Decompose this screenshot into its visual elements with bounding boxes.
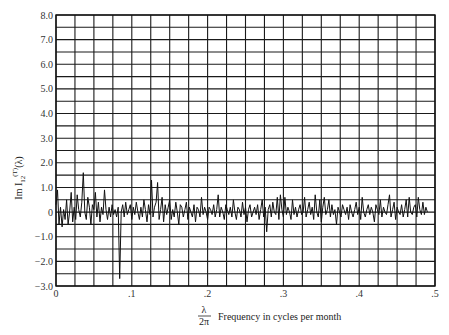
x-axis-ticks: 0.1.2.3.4.5 (54, 288, 439, 299)
x-tick-label: .3 (280, 288, 288, 299)
y-tick-label: −3.0 (35, 281, 53, 292)
x-tick-label: .2 (204, 288, 212, 299)
x-label-text: Frequency in cycles per month (218, 311, 341, 322)
x-axis-label: λ 2π Frequency in cycles per month (198, 304, 341, 327)
y-tick-label: 7.0 (41, 34, 54, 45)
x-tick-label: .4 (355, 288, 363, 299)
x-label-denominator: 2π (199, 316, 209, 327)
x-tick-label: .5 (431, 288, 439, 299)
y-tick-label: 4.0 (41, 108, 54, 119)
y-tick-label: −1.0 (35, 231, 53, 242)
chart: 8.07.06.05.04.03.02.01.00−1.0−2.0−3.0 0.… (0, 0, 449, 335)
x-tick-label: .1 (128, 288, 136, 299)
y-tick-label: 3.0 (41, 133, 54, 144)
x-label-numerator: λ (202, 304, 207, 315)
y-tick-label: 6.0 (41, 59, 54, 70)
y-axis-label: Im I12(T)(λ) (11, 156, 27, 199)
y-tick-label: 1.0 (41, 182, 54, 193)
y-tick-label: 8.0 (41, 10, 54, 21)
y-tick-label: −2.0 (35, 256, 53, 267)
grid-lines (56, 15, 435, 286)
y-tick-label: 0 (48, 207, 53, 218)
y-axis-ticks: 8.07.06.05.04.03.02.01.00−1.0−2.0−3.0 (35, 10, 53, 292)
x-tick-label: 0 (54, 288, 59, 299)
data-series-line (56, 173, 427, 279)
svg-text:Im I12(T)(λ): Im I12(T)(λ) (11, 156, 27, 199)
y-tick-label: 2.0 (41, 157, 54, 168)
y-tick-label: 5.0 (41, 83, 54, 94)
